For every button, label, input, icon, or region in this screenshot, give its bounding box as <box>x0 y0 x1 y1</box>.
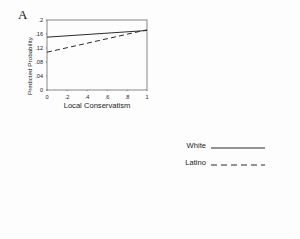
panel-a-plot-area <box>46 19 148 91</box>
panel-b: B Predicted Probability Local Conservati… <box>150 0 300 118</box>
legend-line-solid-icon <box>210 140 266 152</box>
panel-a: A Predicted Probability Local Conservati… <box>0 0 150 118</box>
panel-c-letter: C <box>18 237 27 239</box>
x-tick-label: .2 <box>59 94 75 100</box>
legend-item-white: White <box>180 140 275 152</box>
y-tick-label: 0 <box>21 87 43 93</box>
x-tick-label: .4 <box>79 94 95 100</box>
x-tick-label: .6 <box>99 94 115 100</box>
y-tick-label: .08 <box>21 59 43 65</box>
series-line-white <box>47 31 147 38</box>
y-tick-label: .12 <box>21 45 43 51</box>
legend-item-latino: Latino <box>180 157 275 169</box>
legend-label-white: White <box>180 140 206 152</box>
legend: White Latino <box>180 140 280 174</box>
panel-a-x-axis-label: Local Conservatism <box>47 101 147 110</box>
panel-c: C Predicted Probability Local Conservati… <box>0 118 150 239</box>
legend-label-latino: Latino <box>180 157 206 169</box>
x-tick-label: .8 <box>119 94 135 100</box>
y-tick-label: .04 <box>21 73 43 79</box>
plot-frame <box>47 20 147 90</box>
figure-canvas: A Predicted Probability Local Conservati… <box>0 0 300 239</box>
legend-line-dashed-icon <box>210 157 266 169</box>
y-tick-label: .2 <box>21 17 43 23</box>
x-tick-label: 0 <box>39 94 55 100</box>
y-tick-label: .16 <box>21 31 43 37</box>
series-line-latino <box>47 30 147 52</box>
